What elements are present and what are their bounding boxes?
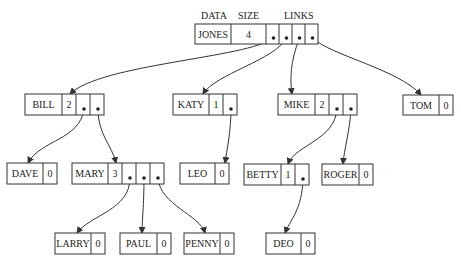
node-size-label: 0 — [444, 100, 449, 111]
link-pointer-icon — [142, 176, 146, 180]
node-size-label: 0 — [96, 238, 101, 249]
node-data-label: PENNY — [185, 238, 218, 249]
edge-bill-mary — [98, 109, 116, 163]
node-tom: TOM0 — [403, 95, 453, 115]
edge-mary-paul — [142, 178, 144, 233]
node-size-label: 0 — [48, 168, 53, 179]
node-size-label: 0 — [220, 168, 225, 179]
link-pointer-icon — [349, 107, 353, 111]
node-jones: JONES4 — [195, 24, 318, 44]
node-paul: PAUL0 — [120, 233, 171, 254]
node-size-label: 0 — [162, 238, 167, 249]
edge-bill-dave — [28, 109, 84, 163]
node-data-label: DAVE — [12, 168, 38, 179]
edge-jones-katy — [203, 38, 287, 94]
link-pointer-icon — [156, 176, 160, 180]
edge-mike-betty — [288, 109, 337, 164]
node-dave: DAVE0 — [7, 163, 57, 184]
node-data-label: TOM — [410, 100, 432, 111]
node-size-label: 4 — [246, 29, 251, 40]
header-size: SIZE — [238, 10, 259, 21]
link-pointer-icon — [272, 36, 276, 40]
node-data-label: BETTY — [246, 169, 278, 180]
node-data-label: MIKE — [284, 99, 310, 110]
node-leo: LEO0 — [180, 163, 229, 184]
link-pointer-icon — [298, 36, 302, 40]
node-deo: DEO0 — [266, 233, 315, 254]
column-headers: DATASIZELINKS — [201, 10, 313, 21]
link-pointer-icon — [301, 177, 305, 181]
node-bill: BILL2 — [25, 94, 104, 115]
edge-jones-mike — [291, 38, 300, 94]
link-pointer-icon — [229, 107, 233, 111]
node-data-label: ROGER — [324, 169, 358, 180]
node-size-label: 0 — [225, 238, 230, 249]
node-roger: ROGER0 — [322, 164, 373, 185]
edge-mike-roger — [343, 109, 351, 164]
link-pointer-icon — [335, 107, 339, 111]
edge-betty-deo — [285, 179, 303, 233]
node-data-label: KATY — [178, 99, 205, 110]
link-pointer-icon — [96, 107, 100, 111]
header-data: DATA — [201, 10, 228, 21]
node-betty: BETTY1 — [244, 164, 309, 185]
node-katy: KATY1 — [173, 94, 237, 115]
node-size-label: 2 — [67, 99, 72, 110]
node-size-label: 0 — [364, 169, 369, 180]
node-data-label: LARRY — [56, 238, 89, 249]
node-penny: PENNY0 — [184, 233, 234, 254]
node-data-label: PAUL — [126, 238, 151, 249]
link-pointer-icon — [82, 107, 86, 111]
nodes: JONES4BILL2KATY1MIKE2TOM0DAVE0MARY3LEO0B… — [7, 24, 453, 254]
node-size-label: 0 — [306, 238, 311, 249]
edge-jones-bill — [70, 38, 274, 94]
node-size-label: 1 — [214, 99, 219, 110]
node-mary: MARY3 — [72, 163, 164, 184]
node-size-label: 1 — [286, 169, 291, 180]
edges — [28, 38, 421, 233]
edge-jones-tom — [313, 38, 422, 95]
edge-mary-penny — [158, 178, 205, 233]
edge-mary-larry — [77, 178, 130, 233]
node-size-label: 3 — [113, 168, 118, 179]
header-links: LINKS — [284, 10, 313, 21]
node-data-label: LEO — [188, 168, 207, 179]
link-pointer-icon — [128, 176, 132, 180]
node-data-label: BILL — [32, 99, 54, 110]
link-pointer-icon — [311, 36, 315, 40]
node-data-label: MARY — [75, 168, 104, 179]
node-mike: MIKE2 — [278, 94, 357, 115]
node-larry: LARRY0 — [55, 233, 105, 254]
edge-katy-leo — [225, 109, 231, 163]
tree-diagram: DATASIZELINKS JONES4BILL2KATY1MIKE2TOM0D… — [0, 0, 461, 262]
node-data-label: DEO — [273, 238, 294, 249]
node-size-label: 2 — [320, 99, 325, 110]
link-pointer-icon — [285, 36, 289, 40]
node-data-label: JONES — [198, 29, 228, 40]
